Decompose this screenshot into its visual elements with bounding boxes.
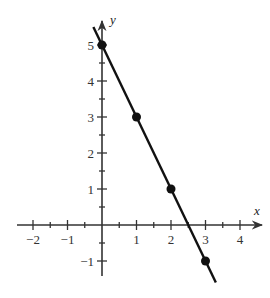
y-axis-label: y bbox=[108, 12, 116, 27]
y-tick-label: 2 bbox=[88, 146, 95, 161]
y-tick-label: 1 bbox=[88, 182, 95, 197]
x-tick-label: 4 bbox=[237, 232, 244, 247]
data-point bbox=[167, 185, 176, 194]
line-series bbox=[93, 27, 215, 283]
x-tick-label: −1 bbox=[61, 232, 75, 247]
data-point bbox=[201, 257, 210, 266]
y-tick-label: −1 bbox=[80, 254, 94, 269]
x-tick-label: 1 bbox=[133, 232, 140, 247]
x-tick-label: −2 bbox=[26, 232, 40, 247]
series bbox=[93, 27, 215, 283]
x-axis-label: x bbox=[253, 203, 260, 218]
data-point bbox=[132, 113, 141, 122]
line-plot: −2−11234−112345 x y bbox=[0, 0, 270, 298]
y-tick-label: 3 bbox=[88, 110, 95, 125]
data-point bbox=[98, 41, 107, 50]
x-tick-label: 2 bbox=[168, 232, 175, 247]
ticks: −2−11234−112345 bbox=[26, 38, 244, 269]
x-tick-label: 3 bbox=[202, 232, 209, 247]
y-tick-label: 4 bbox=[88, 74, 95, 89]
y-tick-label: 5 bbox=[88, 38, 95, 53]
